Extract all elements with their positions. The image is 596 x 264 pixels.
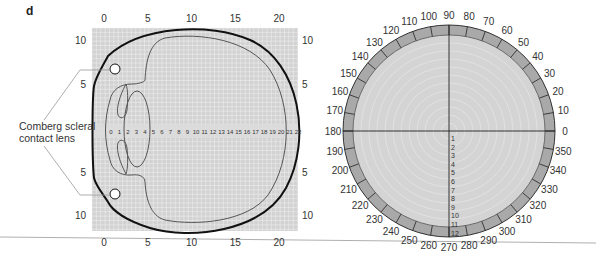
angle-label: 40 (532, 51, 544, 62)
angle-label: 130 (366, 37, 383, 48)
angle-label: 300 (499, 226, 516, 237)
angle-label: 230 (366, 214, 383, 225)
radial-label: 2 (451, 144, 455, 151)
axial-scale-tick: 18 (261, 129, 268, 135)
bottom-axis-tick: 20 (273, 237, 285, 248)
axial-scale-tick: 14 (227, 129, 234, 135)
radial-label: 7 (451, 187, 455, 194)
axial-scale-tick: 12 (210, 129, 217, 135)
figure-stage: d 051015200510152010551 (0, 0, 596, 264)
radial-label: 1 (451, 135, 455, 142)
baseline-rule (0, 237, 596, 243)
right-axis-tick: 5 (302, 79, 308, 90)
bottom-axis-tick: 15 (230, 237, 242, 248)
axial-scale-tick: 10 (193, 129, 200, 135)
angle-label: 50 (518, 37, 530, 48)
angle-label: 10 (558, 105, 570, 116)
axial-scale-tick: 22 (295, 129, 302, 135)
radial-label: 6 (451, 178, 455, 185)
callout-label: Comberg scleral contact lens (19, 120, 95, 144)
top-axis-tick: 20 (273, 13, 285, 24)
angle-label: 210 (340, 184, 357, 195)
angle-label: 280 (461, 240, 478, 251)
angle-label: 340 (550, 165, 567, 176)
right-axis-tick: 5 (302, 167, 308, 178)
radial-label: 5 (451, 169, 455, 176)
top-axis-tick: 10 (186, 13, 198, 24)
angle-label: 330 (541, 184, 558, 195)
radial-label: 12 (451, 230, 459, 237)
radial-label: 11 (451, 221, 458, 228)
radial-label: 3 (451, 152, 455, 159)
polar-angle-chart: 0102030405060708090100110120130140150160… (325, 10, 572, 253)
angle-label: 350 (555, 146, 572, 157)
angle-label: 180 (325, 126, 342, 137)
right-axis-tick: 10 (302, 210, 314, 221)
angle-label: 150 (340, 68, 357, 79)
radial-label: 9 (451, 204, 455, 211)
angle-label: 100 (421, 11, 438, 22)
bottom-axis-tick: 10 (186, 237, 198, 248)
angle-label: 170 (326, 105, 343, 116)
angle-label: 250 (401, 235, 418, 246)
bottom-axis-tick: 0 (101, 237, 107, 248)
callout-line-2: contact lens (19, 132, 95, 144)
axial-scale-tick: 13 (218, 129, 225, 135)
axial-scale-tick: 21 (286, 129, 293, 135)
angle-label: 110 (401, 16, 417, 27)
left-axis-tick: 5 (80, 167, 86, 178)
axial-scale-tick: 17 (252, 129, 259, 135)
angle-label: 310 (515, 214, 532, 225)
axial-scale-tick: 16 (244, 129, 251, 135)
angle-label: 290 (480, 235, 497, 246)
angle-label: 270 (441, 242, 458, 253)
axial-scale-tick: 19 (269, 129, 276, 135)
angle-label: 260 (421, 240, 438, 251)
angle-label: 140 (352, 51, 369, 62)
angle-label: 0 (562, 126, 568, 137)
top-axis-tick: 0 (101, 13, 107, 24)
angle-label: 90 (443, 10, 455, 21)
angle-label: 160 (332, 86, 349, 97)
top-axis-tick: 5 (145, 13, 151, 24)
radial-label: 4 (451, 161, 455, 168)
angle-label: 80 (464, 11, 476, 22)
angle-label: 20 (552, 86, 564, 97)
contact-lens-marker-upper (110, 64, 120, 74)
angle-label: 220 (352, 200, 369, 211)
right-axis-tick: 10 (302, 35, 314, 46)
top-axis-tick: 15 (230, 13, 242, 24)
axial-scale-tick: 11 (201, 129, 208, 135)
axial-scale-tick: 20 (278, 129, 285, 135)
angle-label: 320 (530, 200, 547, 211)
contact-lens-marker-lower (110, 189, 120, 199)
left-axis-tick: 5 (80, 79, 86, 90)
angle-label: 60 (501, 25, 513, 36)
radial-label: 10 (451, 212, 459, 219)
angle-label: 240 (383, 226, 400, 237)
left-axis-tick: 10 (75, 210, 87, 221)
angle-label: 190 (326, 146, 343, 157)
angle-label: 30 (544, 68, 556, 79)
left-axis-tick: 10 (75, 35, 87, 46)
angle-label: 120 (383, 25, 400, 36)
axial-scale-tick: 15 (235, 129, 242, 135)
callout-line-1: Comberg scleral (19, 120, 95, 132)
bottom-axis-tick: 5 (145, 237, 151, 248)
angle-label: 70 (483, 16, 495, 27)
radial-label: 8 (451, 195, 455, 202)
angle-label: 200 (332, 165, 349, 176)
